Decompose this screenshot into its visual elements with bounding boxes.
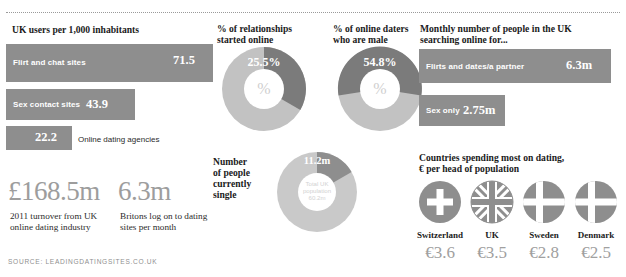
country-value-uk: €3.5 <box>462 243 522 263</box>
single-heading-line3: currently <box>213 178 273 189</box>
bar-value-sex-contact-sites: 43.9 <box>86 97 108 112</box>
flag-sweden-icon <box>522 180 566 228</box>
single-heading-line1: Number <box>213 156 273 167</box>
country-value-sweden: €2.8 <box>514 243 574 263</box>
flag-switzerland-icon <box>418 180 462 228</box>
bar-value-sex-only: 2.75m <box>463 103 495 118</box>
bar-label-sex-only: Sex only <box>426 106 460 115</box>
bar-value-flirts-and-dates: 6.3m <box>566 58 592 73</box>
bar-label-flirt-and-chat-sites: Flirt and chat sites <box>13 58 86 67</box>
donut-single-value: 11.2m <box>276 155 358 166</box>
single-heading-line4: single <box>213 189 273 200</box>
top-divider <box>6 12 620 13</box>
users-section-heading: UK users per 1,000 inhabitants <box>12 24 212 35</box>
bar-label-sex-contact-sites: Sex contact sites <box>13 100 80 109</box>
donut-single-core-line3: 60.2m <box>276 194 358 201</box>
countries-heading-line1: Countries spending most on dating, <box>419 152 619 163</box>
monthly-heading-line2: searching online for... <box>420 34 620 45</box>
flag-uk-icon <box>470 180 514 228</box>
donut-male-daters-center-symbol: % <box>337 80 423 98</box>
bar-label-online-dating-agencies: Online dating agencies <box>78 135 159 144</box>
donut-relationships-center-symbol: % <box>221 80 307 98</box>
stat-britons-caption: Britons log on to dating sites per month <box>120 211 210 233</box>
stat-britons-value: 6.3m <box>118 176 171 207</box>
bar-value-online-dating-agencies: 22.2 <box>35 130 57 145</box>
country-value-denmark: €2.5 <box>566 243 626 263</box>
bar-label-flirts-and-dates: Flirts and dates/a partner <box>426 62 524 71</box>
country-name-denmark: Denmark <box>566 230 626 240</box>
relationships-heading-line2: started online <box>217 34 327 45</box>
country-name-uk: UK <box>462 230 522 240</box>
infographic-canvas: UK users per 1,000 inhabitants Flirt and… <box>0 0 626 277</box>
country-name-sweden: Sweden <box>514 230 574 240</box>
stat-turnover-value: £168.5m <box>8 176 100 207</box>
countries-heading-line2: € per head of population <box>419 163 619 174</box>
relationships-heading-line1: % of relationships <box>217 23 327 34</box>
donut-relationships-value: 25.5% <box>221 55 307 70</box>
donut-male-daters-value: 54.8% <box>337 55 423 70</box>
single-heading-line2: of people <box>213 167 273 178</box>
bar-value-flirt-and-chat-sites: 71.5 <box>173 53 195 68</box>
stat-turnover-caption: 2011 turnover from UK online dating indu… <box>10 211 105 233</box>
source-note: SOURCE: LEADINGDATINGSITES.CO.UK <box>8 258 157 265</box>
flag-denmark-icon <box>574 180 618 228</box>
monthly-heading-line1: Monthly number of people in the UK <box>420 23 620 34</box>
